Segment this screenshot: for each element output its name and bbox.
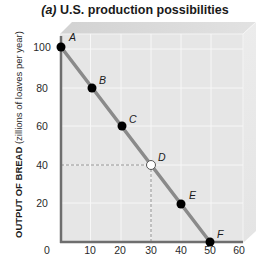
label-a: A — [68, 31, 76, 43]
label-c: C — [129, 113, 137, 125]
label-f: F — [217, 228, 224, 240]
label-b: B — [99, 74, 106, 86]
point-a — [57, 43, 66, 52]
point-c — [118, 122, 127, 131]
label-d: D — [158, 151, 166, 163]
y-tick-40: 40 — [36, 159, 48, 171]
x-tick-50: 50 — [204, 244, 216, 256]
chart-title-text: U.S. production possibilities — [57, 3, 229, 17]
chart-title: (a) U.S. production possibilities — [41, 3, 229, 17]
x-tick-10: 10 — [84, 244, 96, 256]
y-axis-label-units: (zillions of loaves per year) — [13, 31, 24, 147]
point-e — [177, 200, 186, 209]
point-d — [147, 161, 156, 170]
y-tick-100: 100 — [33, 41, 51, 53]
x-tick-40: 40 — [175, 244, 187, 256]
chart-title-prefix: (a) — [41, 3, 56, 17]
y-tick-80: 80 — [36, 82, 48, 94]
x-tick-20: 20 — [114, 244, 126, 256]
y-tick-60: 60 — [36, 120, 48, 132]
x-tick-30: 30 — [145, 244, 157, 256]
box-top-face — [60, 22, 256, 34]
x-tick-0: 0 — [44, 244, 50, 256]
label-e: E — [189, 189, 197, 201]
y-tick-labels: 100 80 60 40 20 — [33, 41, 51, 209]
y-axis-label-bold: OUTPUT OF BREAD — [13, 147, 24, 238]
y-axis-label: OUTPUT OF BREAD (zillions of loaves per … — [13, 31, 24, 238]
point-b — [88, 84, 97, 93]
production-possibilities-chart: (a) U.S. production possibilities — [0, 0, 270, 257]
box-right-face — [243, 22, 256, 243]
x-tick-60: 60 — [233, 244, 245, 256]
y-tick-20: 20 — [36, 197, 48, 209]
x-tick-labels: 0 10 20 30 40 50 60 — [44, 244, 245, 256]
